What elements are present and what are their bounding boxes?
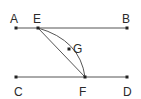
label-c: C xyxy=(14,85,23,99)
point-g xyxy=(68,48,71,51)
label-a: A xyxy=(10,12,18,26)
geometry-diagram: A E B G C F D xyxy=(0,0,141,99)
label-e: E xyxy=(33,12,41,26)
point-c xyxy=(15,76,18,79)
point-d xyxy=(126,76,129,79)
label-f: F xyxy=(79,85,86,99)
label-g: G xyxy=(73,42,82,56)
label-d: D xyxy=(123,85,132,99)
point-e xyxy=(37,27,40,30)
point-a xyxy=(15,27,18,30)
label-b: B xyxy=(122,12,130,26)
point-b xyxy=(126,27,129,30)
point-f xyxy=(84,76,87,79)
